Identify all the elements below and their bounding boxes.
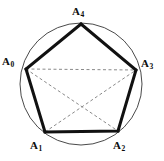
vertex-label-a1-text: A (30, 139, 38, 151)
vertex-label-a3: A3 (141, 58, 153, 69)
vertex-label-a3-subscript: 3 (149, 62, 153, 71)
vertex-dot-a1 (43, 130, 46, 133)
vertex-label-a0: A0 (2, 56, 14, 67)
diagonal-a0-a2 (26, 69, 118, 131)
diagonal-a1-a3 (45, 70, 136, 132)
vertex-label-a0-subscript: 0 (10, 60, 14, 69)
pentagon-outline (26, 24, 136, 132)
vertex-label-a2-text: A (113, 139, 121, 151)
pentagon-figure (0, 0, 164, 161)
vertex-dot-a4 (79, 22, 82, 25)
vertex-label-a1: A1 (30, 140, 42, 151)
vertex-label-a0-text: A (2, 55, 10, 67)
vertex-dot-a2 (116, 129, 119, 132)
vertex-label-a3-text: A (141, 57, 149, 69)
vertex-label-a1-subscript: 1 (38, 144, 42, 153)
vertex-label-a4-text: A (72, 5, 80, 17)
vertex-label-a2: A2 (113, 140, 125, 151)
circumscribed-circle (20, 23, 142, 145)
vertex-label-a4: A4 (72, 6, 84, 17)
vertex-dot-a3 (134, 68, 137, 71)
vertex-dot-a0 (24, 67, 27, 70)
diagonal-a0-a3 (26, 69, 136, 70)
vertex-label-a4-subscript: 4 (80, 10, 84, 19)
vertex-label-a2-subscript: 2 (121, 144, 125, 153)
